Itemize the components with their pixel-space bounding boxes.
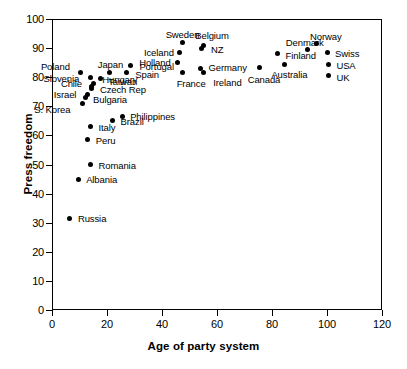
data-point-label: Belgium <box>195 31 229 41</box>
data-point-label: Philippines <box>130 112 175 122</box>
data-point-label: Japan <box>98 60 123 70</box>
data-point-label: Poland <box>41 62 70 72</box>
x-tick-label-0: 0 <box>37 319 67 330</box>
data-point-label: Taiwan <box>108 77 137 87</box>
x-tick-label-40: 40 <box>147 319 177 330</box>
data-point-label: UK <box>336 73 349 83</box>
y-tick-60 <box>46 135 52 136</box>
data-point-marker <box>88 162 93 167</box>
y-tick-label-100: 100 <box>26 14 44 25</box>
data-point-marker <box>201 43 206 48</box>
data-point-label: Peru <box>96 136 116 146</box>
data-point-label: Bulgaria <box>93 95 127 105</box>
data-point-label: Iceland <box>144 48 174 58</box>
y-tick-90 <box>46 48 52 49</box>
data-point-label: Norway <box>310 32 342 42</box>
y-tick-20 <box>46 252 52 253</box>
data-point-marker <box>282 62 287 67</box>
data-point-label: Ireland <box>213 78 241 88</box>
data-point-marker <box>175 60 180 65</box>
data-point-label: Australia <box>271 70 307 80</box>
x-tick-label-60: 60 <box>202 319 232 330</box>
x-tick-80 <box>272 310 273 316</box>
y-tick-30 <box>46 223 52 224</box>
data-point-marker <box>180 40 185 45</box>
y-tick-label-10: 10 <box>32 276 44 287</box>
data-point-label: Romania <box>99 161 136 171</box>
x-tick-100 <box>327 310 328 316</box>
x-axis-title: Age of party system <box>0 340 407 352</box>
data-point-label: Albania <box>86 175 117 185</box>
x-tick-120 <box>382 310 383 316</box>
x-tick-60 <box>217 310 218 316</box>
x-tick-label-120: 120 <box>367 319 397 330</box>
data-point-label: Germany <box>209 63 247 73</box>
y-tick-50 <box>46 165 52 166</box>
x-tick-0 <box>52 310 53 316</box>
data-point-label: Swiss <box>335 49 359 59</box>
data-point-label: Holland <box>139 58 171 68</box>
data-point-label: Israel <box>54 90 77 100</box>
data-point-marker <box>80 101 85 106</box>
scatter-chart-figure: 0102030405060708090100 020406080100120 R… <box>0 0 407 369</box>
data-point-marker <box>91 81 96 86</box>
data-point-marker <box>257 65 262 70</box>
data-point-label: Russia <box>78 214 106 224</box>
y-tick-40 <box>46 194 52 195</box>
data-point-marker <box>76 177 81 182</box>
data-point-label: Italy <box>99 123 116 133</box>
y-tick-label-0: 0 <box>38 305 44 316</box>
y-tick-label-90: 90 <box>32 43 44 54</box>
x-tick-20 <box>107 310 108 316</box>
data-point-label: USA <box>336 61 355 71</box>
x-tick-label-20: 20 <box>92 319 122 330</box>
data-point-label: Slovenia <box>44 74 80 84</box>
x-tick-label-80: 80 <box>257 319 287 330</box>
y-tick-100 <box>46 19 52 20</box>
data-point-marker <box>325 50 330 55</box>
data-point-label: Finland <box>286 51 316 61</box>
y-tick-10 <box>46 281 52 282</box>
data-point-label: S. Korea <box>34 105 70 115</box>
data-point-label: NZ <box>211 45 223 55</box>
data-point-marker <box>128 63 133 68</box>
x-tick-label-100: 100 <box>312 319 342 330</box>
x-tick-40 <box>162 310 163 316</box>
data-point-marker <box>326 62 331 67</box>
y-tick-label-20: 20 <box>32 247 44 258</box>
y-axis-title: Press freedom <box>22 64 34 244</box>
data-point-label: France <box>177 79 206 89</box>
